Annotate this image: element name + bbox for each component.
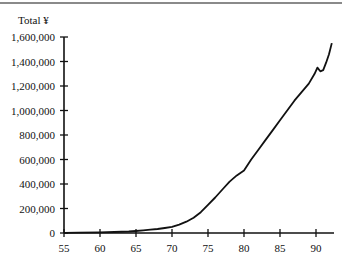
y-tick-label: 1,200,000 <box>11 80 56 92</box>
x-tick-label: 70 <box>167 242 179 254</box>
x-tick-label: 60 <box>95 242 107 254</box>
x-tick-label: 65 <box>131 242 143 254</box>
x-tick-label: 90 <box>311 242 323 254</box>
y-tick-label: 0 <box>50 227 56 239</box>
x-tick-label: 85 <box>275 242 287 254</box>
y-axis: 0200,000400,000600,000800,0001,000,0001,… <box>11 31 68 239</box>
y-tick-label: 1,400,000 <box>11 56 56 68</box>
y-tick-label: 600,000 <box>19 154 55 166</box>
y-tick-label: 200,000 <box>19 203 55 215</box>
y-tick-label: 800,000 <box>19 129 55 141</box>
line-chart: Total ¥ 0200,000400,000600,000800,0001,0… <box>0 0 342 268</box>
y-tick-label: 1,000,000 <box>11 105 56 117</box>
x-tick-label: 75 <box>203 242 215 254</box>
data-line <box>64 43 332 233</box>
y-tick-label: 400,000 <box>19 178 55 190</box>
x-tick-label: 80 <box>239 242 251 254</box>
x-tick-label: 55 <box>59 242 71 254</box>
y-tick-label: 1,600,000 <box>11 31 56 43</box>
y-axis-title: Total ¥ <box>18 14 49 26</box>
